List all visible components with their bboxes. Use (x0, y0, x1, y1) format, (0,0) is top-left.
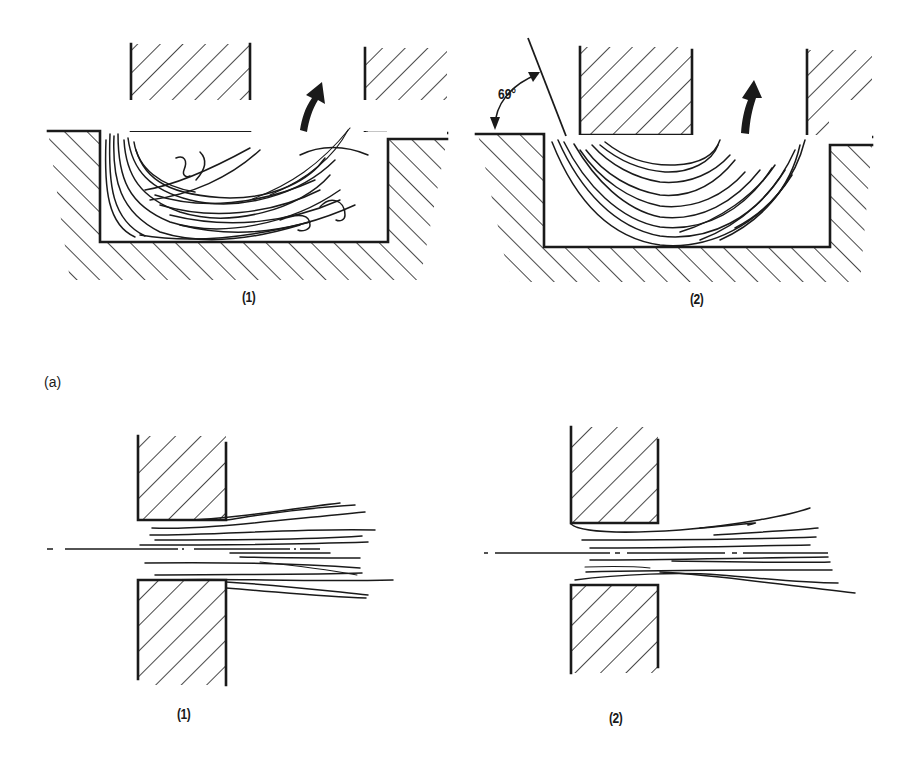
panel-label-top-2: (2) (690, 290, 703, 307)
panel-label-bottom-2: (2) (609, 709, 622, 726)
panel-top-2 (476, 38, 872, 282)
panel-label-bottom-1: (1) (177, 705, 190, 722)
upper-blade (571, 427, 658, 523)
figure-part-label: (a) (44, 374, 61, 390)
panel-bottom-2 (484, 427, 855, 673)
flow-direction-arrow-icon (741, 80, 762, 134)
lower-blade (138, 580, 226, 685)
lower-blade (571, 585, 658, 673)
angle-label: 69° (498, 85, 516, 102)
panel-bottom-1 (47, 436, 393, 685)
panel-label-top-1: (1) (242, 288, 255, 305)
technical-figure (0, 0, 917, 765)
punch-block (580, 47, 692, 135)
panel-top-1 (48, 44, 447, 280)
upper-blade (138, 436, 226, 520)
